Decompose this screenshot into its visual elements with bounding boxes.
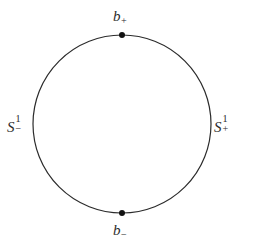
label-b-minus: b− <box>113 223 127 238</box>
label-s-minus-base: S <box>7 119 15 135</box>
label-b-plus: b+ <box>113 9 127 24</box>
label-b-minus-base: b <box>113 222 121 238</box>
label-b-plus-base: b <box>113 8 121 24</box>
circle-outline <box>33 35 211 213</box>
label-b-minus-subscript: − <box>121 229 127 240</box>
label-b-plus-subscript: + <box>121 15 127 26</box>
label-s-plus: S1+ <box>214 117 229 135</box>
label-s-plus-base: S <box>214 119 222 135</box>
point-marker-b-minus <box>119 210 125 216</box>
label-s-plus-subscript: + <box>222 124 228 134</box>
label-s-minus: S1− <box>7 117 22 135</box>
label-s-plus-indices: 1+ <box>222 117 230 132</box>
label-s-minus-subscript: − <box>15 124 21 134</box>
point-marker-b-plus <box>119 32 125 38</box>
label-s-minus-indices: 1− <box>15 117 23 132</box>
circle-diagram-figure: b+ b− S1− S1+ <box>0 0 257 249</box>
